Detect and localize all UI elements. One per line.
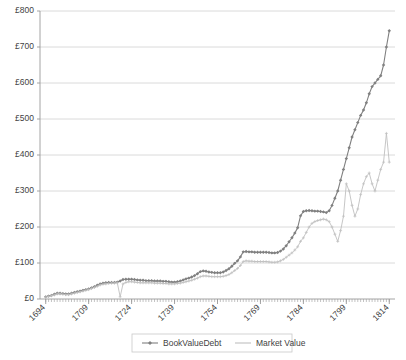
x-tick-label: 1739 xyxy=(156,302,177,323)
legend-label: BookValueDebt xyxy=(163,338,222,348)
y-axis: £0£100£200£300£400£500£600£700£800 xyxy=(15,5,40,303)
y-tick-label: £500 xyxy=(15,113,34,123)
line-chart: £0£100£200£300£400£500£600£700£800169417… xyxy=(0,0,406,360)
x-tick-label: 1709 xyxy=(70,302,91,323)
legend-label: Market Value xyxy=(256,338,306,348)
x-tick-label: 1754 xyxy=(198,302,219,323)
x-tick-label: 1799 xyxy=(327,302,348,323)
x-tick-label: 1724 xyxy=(113,302,134,323)
x-tick-label: 1694 xyxy=(27,302,48,323)
y-tick-label: £400 xyxy=(15,149,34,159)
y-tick-label: £200 xyxy=(15,221,34,231)
y-tick-label: £0 xyxy=(25,293,35,303)
y-tick-label: £300 xyxy=(15,185,34,195)
y-tick-label: £600 xyxy=(15,77,34,87)
x-tick-label: 1784 xyxy=(284,302,305,323)
y-tick-label: £100 xyxy=(15,257,34,267)
chart-container: £0£100£200£300£400£500£600£700£800169417… xyxy=(0,0,406,360)
y-tick-label: £700 xyxy=(15,41,34,51)
y-tick-label: £800 xyxy=(15,5,34,15)
x-tick-label: 1814 xyxy=(370,302,391,323)
x-axis: 169417091724173917541769178417991814 xyxy=(27,299,391,323)
x-tick-label: 1769 xyxy=(241,302,262,323)
